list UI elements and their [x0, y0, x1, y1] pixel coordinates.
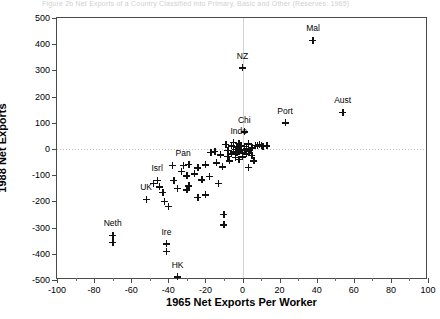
point-label-ire: Ire — [161, 227, 171, 236]
y-tick-label: -300 — [32, 223, 50, 233]
data-point — [202, 161, 209, 168]
point-label-chi: Chi — [238, 115, 251, 124]
data-point — [194, 194, 201, 201]
x-tick-minor — [224, 278, 225, 281]
x-tick-minor — [409, 278, 410, 281]
point-label-hk: HK — [172, 260, 184, 269]
data-point — [109, 239, 116, 246]
point-label-mal: Mal — [306, 24, 320, 33]
x-tick-label: -20 — [199, 285, 212, 295]
data-point — [219, 163, 226, 170]
y-tick-label: 300 — [35, 65, 50, 75]
x-axis-title: 1965 Net Exports Per Worker — [56, 296, 427, 308]
point-label-pan: Pan — [176, 149, 191, 158]
y-tick-label: 500 — [35, 13, 50, 23]
y-tick — [52, 175, 57, 176]
y-tick — [52, 70, 57, 71]
data-point — [163, 248, 170, 255]
y-tick — [52, 123, 57, 124]
chart-page: Figure 2b Net Exports of a Country Class… — [0, 0, 440, 319]
x-tick-minor — [113, 278, 114, 281]
data-point — [263, 142, 270, 149]
x-tick-label: 80 — [386, 285, 396, 295]
data-point-labeled — [143, 196, 150, 203]
cutoff-header-text: Figure 2b Net Exports of a Country Class… — [42, 0, 402, 9]
data-point-labeled — [174, 273, 181, 280]
x-tick — [354, 278, 355, 283]
y-tick-label: 100 — [35, 118, 50, 128]
data-point-labeled — [282, 119, 289, 126]
y-tick — [52, 44, 57, 45]
data-point-labeled — [239, 64, 246, 71]
data-point — [170, 177, 177, 184]
x-tick — [131, 278, 132, 283]
y-tick — [52, 149, 57, 150]
x-tick — [94, 278, 95, 283]
x-tick-minor — [372, 278, 373, 281]
data-point-labeled — [235, 140, 242, 147]
data-point — [198, 176, 205, 183]
y-tick-label: 200 — [35, 92, 50, 102]
plot-area: -500-400-300-200-1000100200300400500-100… — [56, 17, 427, 279]
x-tick-minor — [187, 278, 188, 281]
point-label-aust: Aust — [334, 96, 351, 105]
x-tick-minor — [335, 278, 336, 281]
data-point-labeled — [309, 37, 316, 44]
data-point — [159, 189, 166, 196]
y-tick-label: 400 — [35, 39, 50, 49]
x-tick-minor — [76, 278, 77, 281]
y-tick — [52, 97, 57, 98]
point-label-isrl: Isrl — [151, 164, 162, 173]
data-point — [245, 164, 252, 171]
x-tick — [428, 278, 429, 283]
x-tick-minor — [261, 278, 262, 281]
x-tick-minor — [298, 278, 299, 281]
data-point — [191, 170, 198, 177]
x-tick — [243, 278, 244, 283]
data-point — [215, 180, 222, 187]
x-tick-label: 40 — [312, 285, 322, 295]
y-tick-label: -400 — [32, 249, 50, 259]
x-tick-label: -60 — [125, 285, 138, 295]
data-point — [183, 186, 190, 193]
data-point — [165, 203, 172, 210]
data-point — [220, 211, 227, 218]
data-point — [220, 221, 227, 228]
y-tick-label: -100 — [32, 170, 50, 180]
y-tick — [52, 228, 57, 229]
y-axis-title: 1988 Net Exports — [0, 103, 8, 192]
data-point — [174, 185, 181, 192]
x-tick-minor — [150, 278, 151, 281]
data-point — [206, 173, 213, 180]
data-point — [169, 162, 176, 169]
data-point-labeled — [109, 232, 116, 239]
data-point — [202, 191, 209, 198]
data-point — [183, 172, 190, 179]
point-label-nz: NZ — [237, 51, 248, 60]
x-tick-label: -100 — [48, 285, 66, 295]
point-label-port: Port — [277, 106, 293, 115]
point-label-uk: UK — [140, 183, 152, 192]
y-tick-label: -200 — [32, 196, 50, 206]
y-tick — [52, 201, 57, 202]
x-tick — [57, 278, 58, 283]
x-tick-label: 60 — [349, 285, 359, 295]
point-label-indo: Indo — [231, 127, 248, 136]
x-tick-label: -80 — [88, 285, 101, 295]
y-tick — [52, 18, 57, 19]
data-point-labeled — [163, 240, 170, 247]
data-point-labeled — [339, 109, 346, 116]
data-point — [194, 164, 201, 171]
y-tick-label: 0 — [45, 144, 50, 154]
point-label-neth: Neth — [104, 219, 122, 228]
x-tick-label: 20 — [275, 285, 285, 295]
x-tick — [205, 278, 206, 283]
data-point-labeled — [180, 162, 187, 169]
x-tick-label: 0 — [240, 285, 245, 295]
y-tick-label: -500 — [32, 275, 50, 285]
data-point-labeled — [154, 177, 161, 184]
x-tick — [391, 278, 392, 283]
x-tick — [317, 278, 318, 283]
y-tick — [52, 254, 57, 255]
x-tick-label: 100 — [420, 285, 435, 295]
